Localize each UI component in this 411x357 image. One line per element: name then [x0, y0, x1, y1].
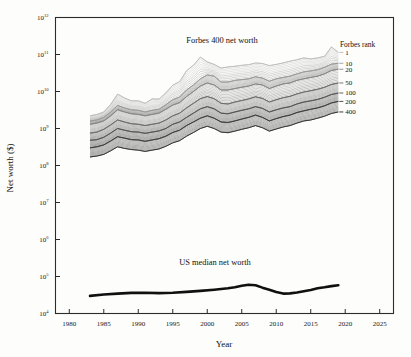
x-tick-label: 2020: [338, 320, 353, 328]
x-tick-label: 1980: [62, 320, 77, 328]
x-tick-label: 1995: [166, 320, 181, 328]
legend-label-rank-200: 200: [345, 98, 356, 106]
x-tick-label: 2000: [200, 320, 215, 328]
legend-label-rank-20: 20: [345, 66, 353, 74]
x-tick-label: 2010: [269, 320, 284, 328]
chart-background: [0, 0, 411, 357]
x-tick-label: 1985: [97, 320, 112, 328]
x-tick-label: 2015: [304, 320, 319, 328]
legend-label-rank-400: 400: [345, 108, 356, 116]
us-median-annotation: US median net worth: [179, 258, 251, 267]
net-worth-log-chart: 101210111010109108107106105104 198019851…: [0, 0, 411, 357]
legend-label-rank-100: 100: [345, 89, 356, 97]
x-tick-label: 2025: [373, 320, 388, 328]
figure-root: 101210111010109108107106105104 198019851…: [0, 0, 411, 357]
legend-title: Forbes rank: [340, 40, 375, 49]
x-tick-label: 1990: [131, 320, 146, 328]
y-axis-title: Net worth ($): [5, 144, 15, 193]
legend-label-rank-50: 50: [345, 79, 353, 87]
legend-label-rank-1: 1: [345, 49, 349, 57]
forbes-400-annotation: Forbes 400 net worth: [186, 36, 258, 45]
x-tick-label: 2005: [235, 320, 250, 328]
x-axis-title: Year: [216, 339, 233, 349]
